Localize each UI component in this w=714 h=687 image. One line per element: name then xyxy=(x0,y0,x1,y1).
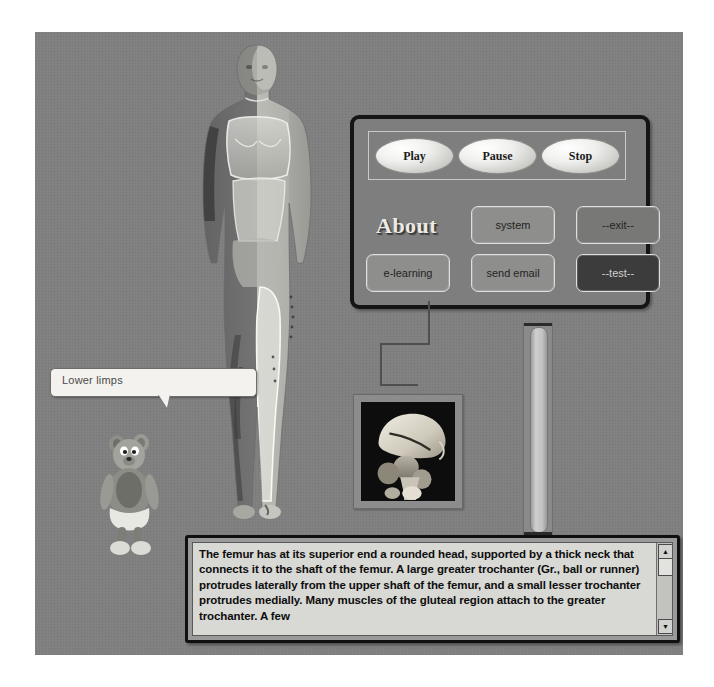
send-email-button[interactable]: send email xyxy=(471,254,555,292)
exit-button[interactable]: --exit-- xyxy=(576,206,660,244)
pause-button[interactable]: Pause xyxy=(458,138,537,174)
region-pelvis xyxy=(232,238,281,287)
description-panel: The femur has at its superior end a roun… xyxy=(185,535,680,643)
callout-tail-icon xyxy=(158,394,170,408)
human-anatomy-figure[interactable] xyxy=(185,35,330,535)
control-panel: Play Pause Stop About system --exit-- e-… xyxy=(350,115,650,309)
application-canvas: Lower limps xyxy=(35,32,683,655)
bone-image-viewer[interactable] xyxy=(353,394,463,509)
scroll-up-icon[interactable]: ▲ xyxy=(658,544,673,559)
test-button[interactable]: --test-- xyxy=(576,254,660,292)
region-thorax xyxy=(227,117,290,180)
callout-label: Lower limps xyxy=(62,374,123,386)
mascot-character[interactable] xyxy=(90,430,170,558)
e-learning-button[interactable]: e-learning xyxy=(366,254,450,292)
slider-track[interactable] xyxy=(530,327,548,533)
vertical-slider[interactable] xyxy=(523,323,553,535)
connector-line-2 xyxy=(380,343,430,345)
connector-line-3 xyxy=(380,343,382,385)
stop-button[interactable]: Stop xyxy=(541,138,620,174)
figure-body xyxy=(185,35,330,535)
bone-image-canvas xyxy=(361,402,455,501)
connector-line-4 xyxy=(380,384,418,386)
mascot-svg xyxy=(90,430,170,558)
figure-foot-left xyxy=(233,505,255,519)
region-abdomen xyxy=(233,178,285,241)
system-button[interactable]: system xyxy=(471,206,555,244)
description-textarea[interactable]: The femur has at its superior end a roun… xyxy=(192,542,673,636)
human-figure-svg xyxy=(185,35,330,535)
connector-line-1 xyxy=(428,301,430,344)
bone-render-svg xyxy=(361,402,455,501)
callout-lower-limbs[interactable]: Lower limps xyxy=(50,368,255,401)
scroll-down-icon[interactable]: ▼ xyxy=(658,619,673,634)
transport-controls-group: Play Pause Stop xyxy=(368,131,626,180)
scrollbar-thumb[interactable] xyxy=(658,558,673,576)
description-scrollbar[interactable]: ▲ ▼ xyxy=(656,543,672,635)
slider-cap-top xyxy=(524,323,552,326)
figure-foot-right xyxy=(259,505,281,519)
about-heading: About xyxy=(376,213,437,239)
play-button[interactable]: Play xyxy=(375,138,454,174)
description-text: The femur has at its superior end a roun… xyxy=(199,547,652,624)
